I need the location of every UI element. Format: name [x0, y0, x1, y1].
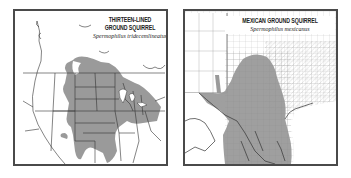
map-title-thirteen-lined: THIRTEEN-LINED GROUND SQUIRREL Spermophi…	[85, 16, 168, 40]
new-mexico-area	[185, 13, 227, 93]
map-panel-thirteen-lined: THIRTEEN-LINED GROUND SQUIRREL Spermophi…	[13, 9, 168, 166]
scientific-name: Spermophilus mexicanus	[233, 25, 327, 33]
common-name: MEXICAN GROUND SQUIRREL	[235, 17, 325, 25]
range-patch-southwest	[61, 133, 68, 139]
common-name-line2: GROUND SQUIRREL	[93, 24, 167, 32]
map-title-mexican: MEXICAN GROUND SQUIRREL Spermophilus mex…	[225, 16, 335, 34]
map-panel-mexican: MEXICAN GROUND SQUIRREL Spermophilus mex…	[183, 9, 338, 166]
scientific-name: Spermophilus tridecemlineatus	[92, 32, 168, 40]
common-name-line1: THIRTEEN-LINED	[93, 16, 167, 24]
gulf-of-mexico	[291, 101, 336, 164]
